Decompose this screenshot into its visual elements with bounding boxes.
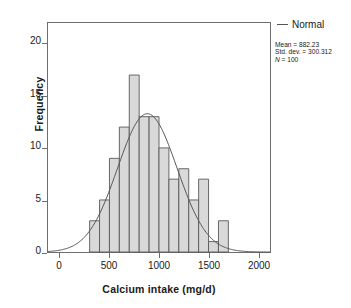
legend: Normal xyxy=(277,19,351,30)
normal-curve xyxy=(48,23,270,252)
y-axis-tick-label: 20 xyxy=(30,36,41,46)
legend-line-icon xyxy=(277,24,288,25)
legend-item-label: Normal xyxy=(292,19,324,30)
x-axis-title: Calcium intake (mg/d) xyxy=(47,283,271,295)
x-axis-tick-label: 1500 xyxy=(187,261,231,271)
y-axis-tick-label: 5 xyxy=(35,194,41,204)
x-axis-tick-mark xyxy=(159,253,160,258)
x-axis-tick-label: 0 xyxy=(37,261,81,271)
plot-area xyxy=(47,22,271,253)
x-axis-tick-label: 500 xyxy=(87,261,131,271)
histogram-figure: 05101520 Frequency 0500100015002000 Calc… xyxy=(0,0,351,308)
normal-distribution-line xyxy=(48,114,270,252)
statistics-annotation: Mean = 882.23 Std. dev. = 300.312 N = 10… xyxy=(275,41,351,63)
x-axis-tick-label: 1000 xyxy=(137,261,181,271)
stat-n: N = 100 xyxy=(275,56,351,63)
stat-std-dev: Std. dev. = 300.312 xyxy=(275,48,351,55)
y-axis-title: Frequency xyxy=(33,59,45,149)
x-axis: 0500100015002000 xyxy=(47,253,271,279)
x-axis-tick-label: 2000 xyxy=(237,261,281,271)
x-axis-tick-mark xyxy=(209,253,210,258)
stat-mean: Mean = 882.23 xyxy=(275,41,351,48)
legend-item-normal: Normal xyxy=(277,19,351,30)
stat-n-value: = 100 xyxy=(280,56,299,63)
x-axis-tick-mark xyxy=(109,253,110,258)
x-axis-tick-mark xyxy=(259,253,260,258)
x-axis-tick-mark xyxy=(59,253,60,258)
y-axis-tick-label: 0 xyxy=(35,246,41,256)
